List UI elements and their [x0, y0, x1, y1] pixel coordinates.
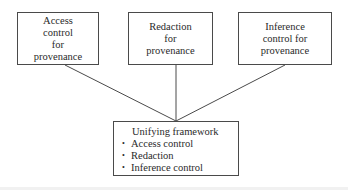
access-control-box: Access control for provenance	[17, 12, 99, 65]
connector-access-to-unify	[65, 65, 176, 121]
list-item: • Redaction	[122, 150, 238, 162]
item-inference-control: Inference control	[131, 162, 203, 173]
unifying-framework-box: Unifying framework • Access control • Re…	[113, 121, 239, 176]
item-redaction: Redaction	[131, 150, 174, 161]
bullet-icon: •	[122, 162, 125, 174]
list-item: • Access control	[122, 138, 238, 150]
redaction-box: Redaction for provenance	[128, 12, 213, 65]
inference-control-label: Inference control for provenance	[261, 21, 309, 57]
bullet-icon: •	[122, 150, 125, 162]
redaction-label: Redaction for provenance	[146, 21, 194, 57]
bottom-edge-strip	[0, 187, 348, 190]
bullet-icon: •	[122, 138, 125, 150]
inference-control-box: Inference control for provenance	[238, 12, 332, 65]
access-control-label: Access control for provenance	[34, 15, 82, 63]
item-access-control: Access control	[131, 138, 193, 149]
unifying-framework-title: Unifying framework	[132, 126, 238, 138]
framework-item-list: • Access control • Redaction • Inference…	[132, 138, 238, 175]
list-item: • Inference control	[122, 162, 238, 174]
connector-inference-to-unify	[176, 65, 285, 121]
